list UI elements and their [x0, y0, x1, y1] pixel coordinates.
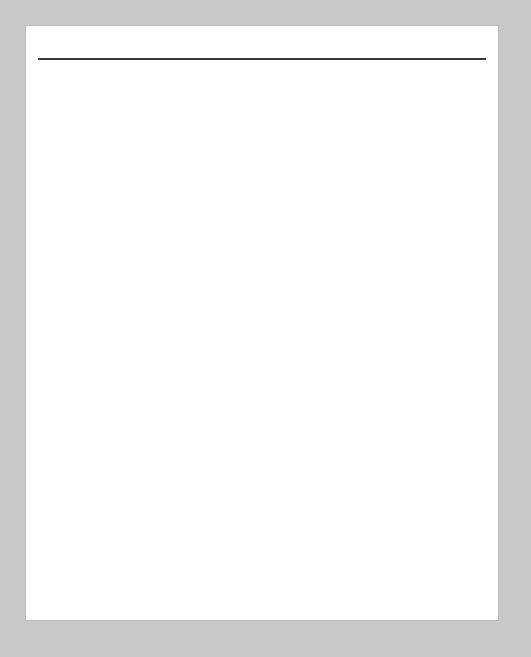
figure-page [0, 0, 531, 657]
chart-index-svg [26, 326, 498, 591]
figure-panel [26, 26, 498, 620]
chart-growth-svg [26, 78, 498, 363]
title-divider [38, 58, 486, 60]
chart-growth-in-percent [26, 78, 498, 363]
chart-export-over-import-index [26, 326, 498, 591]
